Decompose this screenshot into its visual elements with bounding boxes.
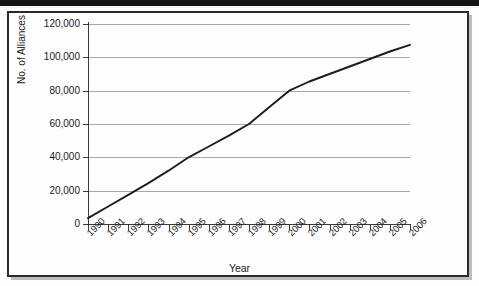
gridline — [88, 91, 410, 92]
y-axis-tick-mark — [83, 24, 89, 25]
y-axis-tick-mark — [83, 91, 89, 92]
y-axis-tick-label: 60,000 — [49, 119, 80, 129]
plot-area — [88, 24, 410, 224]
chart-page: 020,00040,00060,00080,000100,000120,000 … — [0, 0, 479, 286]
gridline — [88, 57, 410, 58]
gridline — [88, 24, 410, 25]
y-axis-tick-mark — [83, 191, 89, 192]
y-axis-tick-label: 40,000 — [49, 152, 80, 162]
gridline — [88, 124, 410, 125]
y-axis-tick-label: 80,000 — [49, 86, 80, 96]
y-axis-tick-mark — [83, 157, 89, 158]
y-axis-tick-labels: 020,00040,00060,00080,000100,000120,000 — [18, 0, 80, 286]
y-axis-tick-mark — [83, 124, 89, 125]
y-axis-tick-label: 120,000 — [44, 19, 80, 29]
y-axis-tick-label: 0 — [74, 219, 80, 229]
figure-shadow-bottom — [11, 277, 471, 280]
y-axis-title: No. of Alliances — [16, 15, 27, 84]
x-axis-title: Year — [0, 262, 479, 274]
figure-shadow-right — [469, 15, 472, 280]
y-axis-tick-mark — [83, 57, 89, 58]
gridline — [88, 157, 410, 158]
y-axis-tick-label: 20,000 — [49, 186, 80, 196]
y-axis-tick-label: 100,000 — [44, 52, 80, 62]
gridline — [88, 191, 410, 192]
